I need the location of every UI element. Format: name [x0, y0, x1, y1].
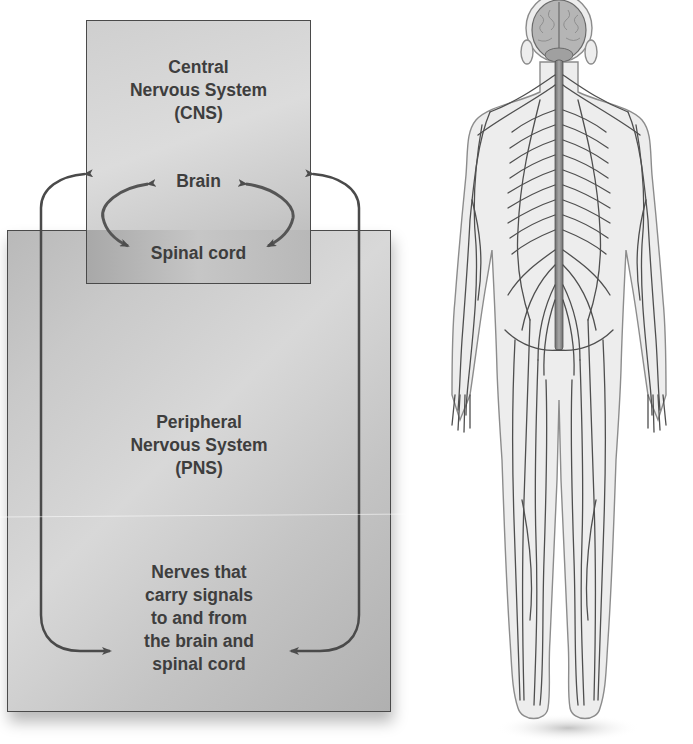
floor-shadow [496, 714, 640, 742]
human-body-illustration [0, 0, 693, 744]
nervous-system-diagram: Central Nervous System (CNS) Brain Spina… [0, 0, 693, 744]
spinal-cord-icon [555, 60, 563, 350]
